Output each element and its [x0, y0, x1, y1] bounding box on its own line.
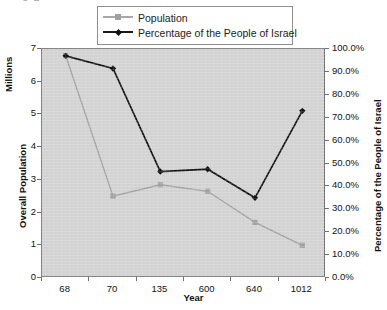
legend-label-percentage: Percentage of the People of Israel — [138, 27, 297, 39]
y-tick-mark-left — [37, 244, 41, 245]
y-tick-label-left: 5 — [10, 107, 36, 118]
y-tick-label-right: 90.0% — [332, 65, 374, 76]
x-tick-label: 135 — [136, 283, 182, 294]
y-tick-mark-right — [325, 140, 329, 141]
y-tick-label-right: 0.0% — [332, 271, 374, 282]
chart-legend: Population Percentage of the People of I… — [97, 6, 293, 45]
x-tick-label: 68 — [42, 283, 88, 294]
diamond-marker-icon — [103, 27, 133, 38]
y-tick-mark-right — [325, 163, 329, 164]
legend-item-percentage: Percentage of the People of Israel — [103, 25, 287, 40]
x-tick-mark — [278, 277, 279, 281]
x-tick-mark — [136, 277, 137, 281]
y-tick-mark-right — [325, 71, 329, 72]
x-tick-mark — [183, 277, 184, 281]
legend-label-population: Population — [138, 12, 188, 24]
y-tick-label-right: 30.0% — [332, 202, 374, 213]
data-point-marker — [252, 220, 257, 225]
data-point-marker — [157, 168, 163, 174]
y-tick-label-right: 20.0% — [332, 225, 374, 236]
y-tick-mark-right — [325, 185, 329, 186]
data-point-marker — [110, 65, 116, 71]
y-tick-label-right: 80.0% — [332, 88, 374, 99]
x-tick-label: 70 — [89, 283, 135, 294]
y-tick-mark-left — [37, 212, 41, 213]
x-tick-label: 1012 — [278, 283, 324, 294]
y-tick-label-left: 0 — [10, 271, 36, 282]
x-tick-label: 640 — [231, 283, 277, 294]
series-line-population — [66, 56, 303, 246]
y-tick-label-right: 10.0% — [332, 248, 374, 259]
chart-container: o p , Population Percentage of the Peopl… — [0, 0, 387, 310]
legend-item-population: Population — [103, 10, 287, 25]
y-tick-mark-left — [37, 146, 41, 147]
y-tick-mark-right — [325, 94, 329, 95]
y-tick-label-right: 60.0% — [332, 134, 374, 145]
y-tick-mark-right — [325, 48, 329, 49]
data-point-marker — [300, 243, 305, 248]
y-tick-label-left: 3 — [10, 173, 36, 184]
x-tick-mark — [230, 277, 231, 281]
data-point-marker — [205, 189, 210, 194]
y-tick-mark-right — [325, 231, 329, 232]
square-marker-icon — [103, 12, 133, 23]
y-tick-label-left: 7 — [10, 42, 36, 53]
y-tick-label-left: 6 — [10, 75, 36, 86]
x-tick-mark — [41, 277, 42, 281]
y-tick-mark-left — [37, 179, 41, 180]
data-point-marker — [110, 194, 115, 199]
x-tick-label: 600 — [184, 283, 230, 294]
data-point-marker — [299, 108, 305, 114]
y-tick-label-right: 70.0% — [332, 111, 374, 122]
y-tick-mark-right — [325, 117, 329, 118]
y-tick-mark-left — [37, 48, 41, 49]
cut-off-text-sliver: o p , — [22, 0, 50, 1]
y-tick-label-right: 100.0% — [332, 42, 374, 53]
y-tick-mark-right — [325, 254, 329, 255]
plot-area — [41, 48, 325, 277]
y-tick-mark-left — [37, 113, 41, 114]
y-tick-label-right: 50.0% — [332, 157, 374, 168]
y-tick-label-left: 4 — [10, 140, 36, 151]
y-tick-label-left: 1 — [10, 238, 36, 249]
x-tick-mark — [325, 277, 326, 281]
y-tick-label-right: 40.0% — [332, 179, 374, 190]
x-tick-mark — [88, 277, 89, 281]
y-tick-mark-right — [325, 208, 329, 209]
y-tick-label-left: 2 — [10, 206, 36, 217]
series-svg — [42, 49, 326, 278]
y-tick-mark-left — [37, 81, 41, 82]
data-point-marker — [158, 182, 163, 187]
series-line-percentage — [66, 56, 303, 198]
